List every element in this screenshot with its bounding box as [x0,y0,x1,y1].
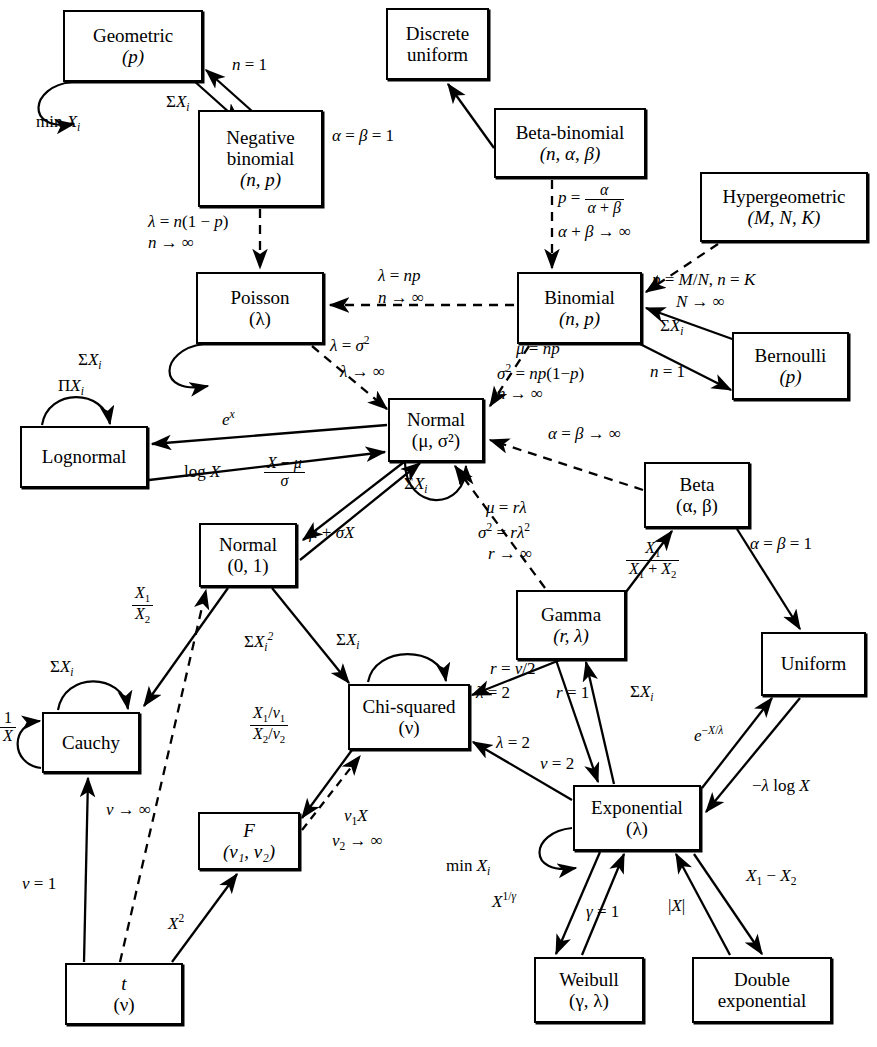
node-negative-binomial-params: (n, p) [240,169,281,190]
node-hypergeometric-name: Hypergeometric [722,186,845,207]
edge-normal-to-lognormal [152,425,387,444]
label-normal-self: ΣXi [404,474,428,497]
node-chi-squared[interactable]: Chi-squared (ν) [348,684,470,750]
node-gamma-name: Gamma [541,604,601,625]
edge-beta-to-normal [490,440,643,490]
label-binomial-to-normal-3: n → ∞ [497,384,543,404]
label-binomial-to-normal-1: μ = np [516,339,560,359]
node-beta[interactable]: Beta (α, β) [644,462,750,528]
label-poisson-self: ΣXi [78,350,102,373]
label-negbinom-to-geometric: n = 1 [232,55,267,75]
node-negative-binomial[interactable]: Negative binomial (n, p) [198,110,323,207]
label-exponential-self: min Xi [446,856,490,879]
node-negative-binomial-name2: binomial [227,148,295,169]
node-beta-binomial-name: Beta-binomial [516,122,625,143]
label-normal01-to-cauchy: X1X2 [132,585,153,625]
node-bernoulli[interactable]: Bernoulli (p) [732,332,849,400]
node-gamma-params: (r, λ) [553,625,589,646]
node-beta-binomial[interactable]: Beta-binomial (n, α, β) [494,108,646,178]
node-uniform[interactable]: Uniform [761,632,866,696]
label-f-to-chisquared-2: ν2 → ∞ [332,831,383,854]
node-exponential-name: Exponential [591,797,683,818]
node-hypergeometric-params: (M, N, K) [748,207,821,228]
label-normal01-to-normal: μ + σX [309,523,354,543]
node-double-exponential[interactable]: Double exponential [692,957,832,1023]
label-hypergeometric-to-binomial-1: p = M/N, n = K [652,270,755,290]
label-binomial-to-poisson-2: n → ∞ [378,288,424,308]
node-beta-name: Beta [680,474,715,495]
edge-chisquared-self [368,654,446,682]
edge-negbinom-to-geometric [206,70,253,112]
node-normal-mu-sigma[interactable]: Normal (μ, σ²) [388,398,484,462]
node-t[interactable]: t (ν) [65,963,183,1025]
node-beta-binomial-params: (n, α, β) [540,143,601,164]
label-t-to-f: X2 [168,912,184,933]
label-poisson-to-normal-2: λ → ∞ [340,362,385,382]
node-discrete-uniform-name2: uniform [407,44,468,65]
edge-cauchy-self-left [18,721,41,768]
label-beta-to-uniform: α = β = 1 [750,534,812,554]
node-geometric-name: Geometric [93,25,173,46]
label-double-exponential-to-exponential: |X| [668,896,685,916]
node-binomial[interactable]: Binomial (n, p) [517,272,642,344]
label-chisquared-to-f: X1/ν1X2/ν2 [250,705,288,745]
label-exponential-to-chisquared-2: ν = 2 [540,754,574,774]
node-f[interactable]: F (ν₁, ν₂) [198,812,300,870]
label-gamma-to-normal-2: σ2 = rλ2 [478,521,530,542]
label-chisquared-self: ΣXi [336,630,360,653]
node-double-exponential-name: Double [734,969,790,990]
node-binomial-params: (n, p) [559,308,600,329]
node-double-exponential-name2: exponential [718,990,807,1011]
node-uniform-name: Uniform [781,653,846,674]
node-normal-01[interactable]: Normal (0, 1) [199,523,297,587]
node-lognormal[interactable]: Lognormal [20,426,148,488]
node-gamma[interactable]: Gamma (r, λ) [516,590,626,660]
node-weibull-params: (γ, λ) [569,990,609,1011]
label-exponential-to-weibull: X1/γ [492,890,516,911]
node-lognormal-name: Lognormal [42,446,126,467]
edge-normal01-to-normal [300,463,420,560]
node-chi-squared-params: (ν) [398,717,419,738]
label-poisson-to-normal-1: λ = σ2 [330,334,370,355]
node-normal-mu-sigma-name: Normal [407,409,465,430]
label-uniform-to-exponential: −λ log X [752,776,810,796]
edge-exponential-self [540,828,577,869]
label-hypergeometric-to-binomial-2: N → ∞ [676,292,725,312]
label-lognormal-to-normal: log X [184,462,220,482]
label-gamma-to-exponential: r = 1 [556,683,589,703]
label-gamma-to-normal-1: μ = rλ [486,498,527,518]
label-exponential-to-uniform: e−X/λ [694,724,723,745]
node-negative-binomial-name: Negative [226,127,295,148]
label-lognormal-self: ΠXi [58,376,84,399]
label-beta-to-normal: α = β → ∞ [548,424,621,444]
node-geometric[interactable]: Geometric (p) [63,10,203,82]
node-exponential[interactable]: Exponential (λ) [573,785,701,851]
node-cauchy[interactable]: Cauchy [42,712,140,773]
node-normal-01-name: Normal [219,534,277,555]
node-poisson[interactable]: Poisson (λ) [196,272,324,344]
node-poisson-params: (λ) [249,308,271,329]
node-t-params: (ν) [113,994,134,1015]
label-cauchy-self-left: 1X [0,710,16,745]
label-betabinom-to-discrete-uniform: α = β = 1 [332,126,394,146]
label-normal-to-normal01: X − μσ [264,455,305,490]
node-f-params: (ν₁, ν₂) [223,841,275,862]
label-exponential-to-gamma: ΣXi [630,682,654,705]
node-weibull[interactable]: Weibull (γ, λ) [534,957,644,1023]
edge-t-to-cauchy [84,778,88,962]
node-normal-mu-sigma-params: (μ, σ²) [412,430,460,451]
node-bernoulli-name: Bernoulli [755,345,827,366]
node-hypergeometric[interactable]: Hypergeometric (M, N, K) [700,172,868,242]
edge-t-to-normal01 [120,590,206,962]
label-binomial-to-bernoulli: n = 1 [650,362,685,382]
label-normal-to-lognormal: ex [222,408,235,429]
label-exponential-to-chisquared-1: λ = 2 [496,733,530,753]
label-chisquared-to-gamma-1: r = ν/2 [490,659,536,679]
node-discrete-uniform[interactable]: Discrete uniform [386,8,489,80]
label-binomial-to-poisson-1: λ = np [378,266,420,286]
edge-betabinom-to-discrete-uniform [448,84,494,148]
edge-normal01-to-cauchy [144,588,228,706]
edge-lognormal-self [42,397,110,425]
edge-cauchy-self-top [58,681,128,710]
node-f-name: F [243,820,255,841]
